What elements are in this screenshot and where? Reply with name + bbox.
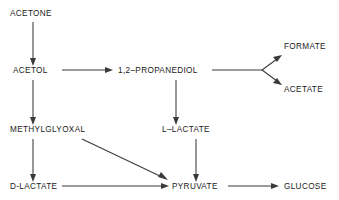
- edge-propanediol-to-formate: [262, 55, 282, 70]
- node-label-glucose: GLUCOSE: [284, 182, 327, 191]
- edge-propanediol-to-acetate: [262, 70, 282, 85]
- pathway-diagram: ACETONE ACETOL 1,2–PROPANEDIOL FORMATE A…: [0, 0, 339, 200]
- node-label-pyruvate: PYRUVATE: [172, 182, 218, 191]
- node-label-acetol: ACETOL: [13, 66, 48, 75]
- node-label-acetate: ACETATE: [284, 85, 323, 94]
- node-label-propanediol: 1,2–PROPANEDIOL: [118, 66, 198, 75]
- pathway-canvas: ACETONE ACETOL 1,2–PROPANEDIOL FORMATE A…: [0, 0, 339, 200]
- node-label-formate: FORMATE: [284, 42, 326, 51]
- edge-propanediol-to-l-lactate: [173, 80, 179, 125]
- edge-acetone-to-acetol: [30, 22, 36, 66]
- node-label-l-lactate: L–LACTATE: [162, 125, 210, 134]
- edge-methylglyoxal-to-d-lactate: [30, 139, 36, 182]
- node-label-d-lactate: D-LACTATE: [10, 182, 58, 191]
- edge-pyruvate-to-glucose: [228, 183, 279, 189]
- edge-l-lactate-to-pyruvate: [193, 139, 199, 182]
- edge-acetol-to-methylglyoxal: [30, 80, 36, 125]
- edge-acetol-to-propanediol: [62, 67, 113, 73]
- edge-methylglyoxal-to-pyruvate: [82, 139, 168, 180]
- node-label-methylglyoxal: METHYLGLYOXAL: [10, 125, 85, 134]
- edge-d-lactate-to-pyruvate: [62, 183, 169, 189]
- node-label-acetone: ACETONE: [10, 9, 52, 18]
